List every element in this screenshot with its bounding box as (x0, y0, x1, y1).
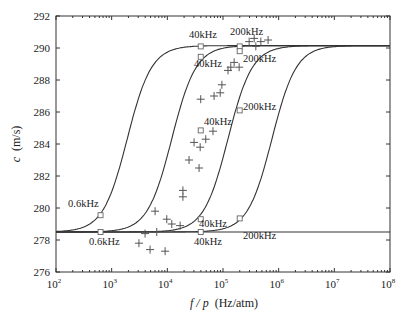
plus-marker (141, 230, 149, 238)
square-marker (237, 44, 242, 49)
plus-marker (264, 36, 272, 44)
square-marker (98, 230, 103, 235)
frequency-markers (98, 44, 242, 235)
plus-marker (163, 215, 171, 223)
square-marker (237, 108, 242, 113)
y-tick-label: 292 (34, 10, 51, 22)
plus-marker (197, 95, 205, 103)
plus-marker (151, 207, 159, 215)
plus-marker (218, 81, 226, 89)
plus-marker (190, 138, 198, 146)
frequency-label: 200kHz (230, 26, 264, 37)
curve-line (56, 46, 390, 232)
plus-marker (153, 228, 161, 236)
frequency-label: 200kHz (243, 53, 277, 64)
y-tick-label: 290 (34, 42, 51, 54)
frequency-label: 0.6kHz (68, 198, 99, 209)
square-marker (237, 216, 242, 221)
plus-marker (235, 63, 243, 71)
y-tick-label: 286 (34, 106, 51, 118)
frequency-label: 40kHz (189, 29, 217, 40)
x-tick-label: 106 (269, 277, 284, 290)
x-tick-label: 107 (325, 277, 340, 290)
chart: 102103104105106107108 276278280282284286… (0, 0, 404, 315)
plot-frame (56, 16, 390, 272)
frequency-label: 40kHz (204, 116, 232, 127)
plus-marker (168, 220, 176, 228)
frequency-label: 40kHz (194, 236, 222, 247)
plus-marker (195, 164, 203, 172)
plus-marker (185, 156, 193, 164)
y-tick-label: 276 (34, 266, 51, 278)
frequency-label: 40kHz (194, 58, 222, 69)
x-tick-label: 108 (381, 277, 396, 290)
plus-marker (252, 42, 260, 50)
frequency-label: 200kHz (243, 230, 277, 241)
x-tick-label: 103 (102, 277, 117, 290)
plus-marker (161, 247, 169, 255)
square-marker (198, 44, 203, 49)
y-tick-label: 278 (34, 234, 51, 246)
square-marker (198, 230, 203, 235)
plus-marker (202, 135, 210, 143)
plus-marker (209, 127, 217, 135)
plus-marker (135, 239, 143, 247)
square-marker (98, 213, 103, 218)
y-tick-label: 282 (34, 170, 51, 182)
y-tick-label: 280 (34, 202, 51, 214)
frequency-label: 0.6kHz (89, 236, 120, 247)
y-tick-label: 288 (34, 74, 51, 86)
x-tick-label: 104 (158, 277, 173, 290)
plot-area-border (56, 16, 390, 272)
x-axis-label: f / p (Hz/atm) (190, 296, 258, 310)
dispersion-curves (56, 46, 390, 232)
frequency-label: 200kHz (243, 101, 277, 112)
plus-marker (179, 193, 187, 201)
plus-marker (230, 58, 238, 66)
y-axis-label: c (m/s) (9, 126, 23, 163)
frequency-label: 40kHz (199, 218, 227, 229)
plus-marker (196, 143, 204, 151)
square-marker (237, 49, 242, 54)
x-tick-label: 102 (47, 277, 62, 290)
y-tick-label: 284 (34, 138, 51, 150)
square-marker (198, 128, 203, 133)
plus-marker (176, 222, 184, 230)
x-tick-label: 105 (214, 277, 229, 290)
plus-marker (146, 246, 154, 254)
